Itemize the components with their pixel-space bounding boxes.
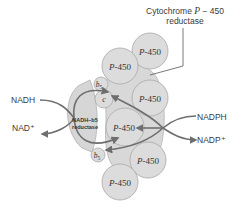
title-line1: Cytochrome P − 450 xyxy=(146,6,224,16)
nadh-b5-reductase-label-2: reductase xyxy=(72,124,98,130)
nadp-plus-label: NADP⁺ xyxy=(197,135,226,145)
arrow-nadph-to-nadp xyxy=(163,116,196,140)
cyt-c-label: c xyxy=(102,95,106,104)
nadh-label: NADH xyxy=(11,95,35,105)
nad-plus-label: NAD⁺ xyxy=(12,123,35,133)
nadph-label: NADPH xyxy=(197,112,227,122)
nadh-b5-reductase-label-1: NADH−b5 xyxy=(72,117,98,123)
p450-label-2: P-450 xyxy=(108,62,131,72)
title-line2: reductase xyxy=(166,16,204,26)
p450-label-3: P-450 xyxy=(138,94,161,104)
electron-transport-diagram: Cytochrome P − 450 reductase P-450 P-450… xyxy=(0,0,232,205)
p450-label-6: P-450 xyxy=(108,178,131,188)
p450-label-4: P-450 xyxy=(112,123,135,133)
p450-label-5: P-450 xyxy=(136,156,159,166)
p450-label-1: P-450 xyxy=(138,47,161,57)
